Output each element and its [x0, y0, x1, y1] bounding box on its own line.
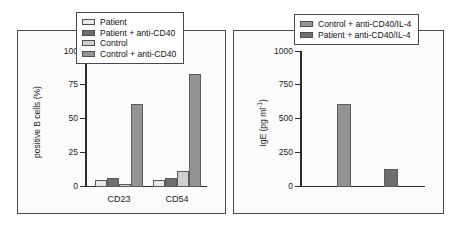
legend-label-control-anti-cd40: Control + anti-CD40: [100, 49, 176, 60]
right-y-axis-label-main: IgE (pg ml: [258, 108, 268, 147]
bar-patient-anti-cd40-il4: [384, 169, 398, 187]
legend-item-patient: Patient: [82, 17, 176, 28]
right-tick-250: [295, 152, 300, 153]
bar-cd23-patient: [95, 180, 107, 187]
legend-swatch-patient: [82, 19, 95, 25]
legend-item-patient-anti-cd40: Patient + anti-CD40: [82, 28, 176, 39]
left-plot-area: 0 25 50 75 100: [85, 51, 207, 187]
legend-swatch-control-anti-cd40-il4: [300, 21, 313, 27]
legend-swatch-patient-anti-cd40: [82, 30, 95, 36]
bar-control-anti-cd40-il4: [337, 104, 351, 187]
legend-item-control-anti-cd40: Control + anti-CD40: [82, 49, 176, 60]
bar-cd23-patient-anti-cd40: [107, 178, 119, 188]
legend-label-patient: Patient: [100, 17, 127, 28]
right-tick-label-0: 0: [288, 181, 293, 191]
left-tick-75: [80, 84, 85, 85]
left-tick-50: [80, 118, 85, 119]
right-x-axis: [300, 186, 425, 188]
right-tick-label-1000: 1000: [274, 46, 293, 56]
right-tick-500: [295, 118, 300, 119]
bar-cd54-control-anti-cd40: [189, 74, 201, 187]
category-label-cd23: CD23: [107, 194, 130, 204]
left-tick-0: [80, 186, 85, 187]
figure-root: positive B cells (%) 0 25 50 75 100 CD23…: [0, 0, 459, 229]
left-tick-25: [80, 152, 85, 153]
legend-swatch-control: [82, 40, 95, 46]
right-tick-750: [295, 84, 300, 85]
right-plot-area: 0 250 500 750 1000: [300, 51, 425, 187]
legend-label-control-anti-cd40-il4: Control + anti-CD40/IL-4: [318, 19, 411, 30]
legend-item-control: Control: [82, 38, 176, 49]
bar-cd54-patient: [153, 180, 165, 187]
legend-item-patient-anti-cd40-il4: Patient + anti-CD40/IL-4: [300, 30, 411, 41]
left-tick-label-50: 50: [69, 113, 78, 123]
right-tick-1000: [295, 51, 300, 52]
bar-cd23-control-anti-cd40: [131, 104, 143, 187]
right-tick-0: [295, 186, 300, 187]
right-tick-label-500: 500: [279, 113, 293, 123]
left-legend: Patient Patient + anti-CD40 Control Cont…: [76, 12, 184, 64]
legend-swatch-control-anti-cd40: [82, 51, 95, 57]
right-y-axis-label-exponent: -1: [256, 102, 263, 108]
right-y-axis-label-tail: ): [258, 99, 268, 102]
bar-cd23-control: [119, 184, 131, 187]
category-label-cd54: CD54: [165, 194, 188, 204]
right-y-axis: [300, 51, 302, 187]
left-tick-label-75: 75: [69, 79, 78, 89]
left-y-axis: [85, 51, 87, 187]
right-tick-label-750: 750: [279, 79, 293, 89]
legend-label-patient-anti-cd40: Patient + anti-CD40: [100, 28, 175, 39]
bar-cd54-patient-anti-cd40: [165, 178, 177, 188]
right-tick-label-250: 250: [279, 147, 293, 157]
legend-label-control: Control: [100, 38, 128, 49]
legend-item-control-anti-cd40-il4: Control + anti-CD40/IL-4: [300, 19, 411, 30]
bar-cd54-control: [177, 171, 189, 187]
left-tick-label-25: 25: [69, 147, 78, 157]
left-tick-label-0: 0: [73, 181, 78, 191]
legend-label-patient-anti-cd40-il4: Patient + anti-CD40/IL-4: [318, 30, 410, 41]
legend-swatch-patient-anti-cd40-il4: [300, 32, 313, 38]
right-legend: Control + anti-CD40/IL-4 Patient + anti-…: [294, 14, 419, 45]
left-y-axis-label: positive B cells (%): [32, 72, 42, 172]
right-y-axis-label: IgE (pg ml-1): [256, 73, 268, 173]
